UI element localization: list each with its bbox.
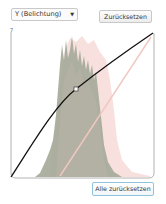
curve-control-point[interactable] bbox=[74, 87, 78, 91]
curve-editor[interactable] bbox=[10, 30, 155, 179]
channel-dropdown-value: Y (Belichtung) bbox=[15, 10, 61, 18]
chevron-down-icon: ▼ bbox=[70, 9, 74, 20]
reset-all-button[interactable]: Alle zurücksetzen bbox=[92, 182, 154, 196]
reset-button[interactable]: Zurücksetzen bbox=[99, 10, 152, 23]
channel-dropdown[interactable]: Y (Belichtung) ▼ bbox=[11, 8, 78, 21]
